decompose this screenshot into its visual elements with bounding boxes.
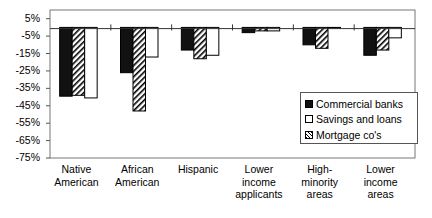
legend-label: Commercial banks [316,98,403,110]
legend: Commercial banks Savings and loans Mortg… [300,92,418,144]
y-tick-label: -45% [0,99,40,111]
y-tick-label: -25% [0,64,40,76]
legend-label: Savings and loans [316,113,402,125]
bar [364,27,377,55]
legend-item-commercial-banks: Commercial banks [305,96,417,112]
x-category-label: Hispanic [168,163,228,176]
x-category-label: Lowerincomeapplicants [229,163,289,201]
legend-item-mortgage-cos: Mortgage co's [305,127,417,143]
bar [121,27,134,72]
y-tick-label: -35% [0,81,40,93]
bar [316,27,329,48]
bar [181,27,194,50]
y-tick-label: -55% [0,116,40,128]
bar [267,27,280,30]
y-tick-label: -65% [0,134,40,146]
x-category-label: AfricanAmerican [107,163,167,188]
bar [206,27,219,55]
y-tick-label: -75% [0,151,40,163]
bar [303,27,316,44]
bar [146,27,159,57]
y-axis-ticks [46,19,50,158]
x-category-label: NativeAmerican [46,163,106,188]
bar [133,27,146,111]
legend-item-savings-and-loans: Savings and loans [305,112,417,128]
x-category-label: Lowerincomeareas [351,163,411,201]
bar [376,27,389,50]
legend-label: Mortgage co's [316,129,382,141]
white-swatch-icon [305,115,313,123]
hatched-swatch-icon [305,131,313,139]
bar [194,27,207,58]
y-tick-label: -15% [0,47,40,59]
black-swatch-icon [305,100,313,108]
y-tick-label: -5% [0,29,40,41]
bar [328,27,341,28]
bar [85,27,98,98]
x-category-label: High-minorityareas [290,163,350,201]
y-tick-label: 5% [0,12,40,24]
bar [60,27,73,96]
bar [255,27,268,30]
bar [72,27,85,95]
